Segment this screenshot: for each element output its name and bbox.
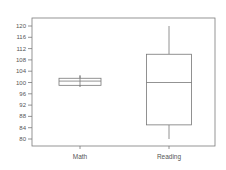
box-math: [59, 75, 101, 86]
y-tick-label: 116: [16, 34, 26, 40]
y-axis: 8084889296100104108112116120: [16, 23, 32, 142]
x-category-label: Reading: [157, 153, 182, 161]
y-tick-label: 108: [16, 57, 27, 63]
y-tick-label: 112: [16, 46, 26, 52]
x-category-label: Math: [73, 153, 88, 160]
y-tick-label: 104: [16, 68, 27, 74]
y-tick-label: 120: [16, 23, 27, 29]
box-series: [59, 26, 192, 139]
y-tick-label: 100: [16, 80, 27, 86]
box-reading: [147, 26, 192, 139]
y-tick-label: 88: [19, 113, 26, 119]
y-tick-label: 96: [19, 91, 26, 97]
y-tick-label: 92: [19, 102, 26, 108]
y-tick-label: 84: [19, 125, 26, 131]
box-plot-chart: 8084889296100104108112116120 MathReading: [0, 0, 226, 170]
x-axis: MathReading: [73, 146, 182, 161]
y-tick-label: 80: [19, 136, 26, 142]
iqr-box: [147, 54, 192, 125]
